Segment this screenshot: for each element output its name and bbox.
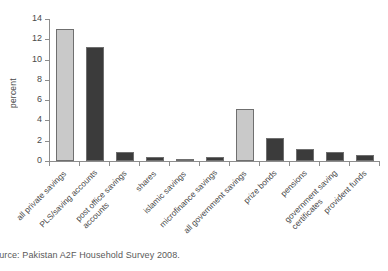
y-tick-mark	[45, 19, 49, 20]
y-tick-mark	[45, 141, 49, 142]
bar-series	[50, 19, 380, 161]
y-tick-label: 12	[32, 33, 42, 43]
y-tick-label: 6	[37, 94, 42, 104]
y-tick-mark	[45, 120, 49, 121]
bar	[206, 157, 224, 161]
bar	[176, 159, 194, 161]
y-tick-mark	[45, 100, 49, 101]
chart-figure: percent 02468101214 all private savingsP…	[0, 0, 388, 271]
x-axis-label-line: shares	[134, 168, 159, 193]
bar	[116, 152, 134, 161]
y-tick-label: 2	[37, 135, 42, 145]
source-note: Source: Pakistan A2F Household Survey 20…	[0, 250, 180, 260]
y-tick-label: 14	[32, 13, 42, 23]
y-tick-mark	[45, 80, 49, 81]
bar	[326, 152, 344, 161]
y-axis-title: percent	[8, 58, 24, 128]
bar	[56, 29, 74, 161]
y-tick-mark	[45, 60, 49, 61]
x-axis-label: shares	[134, 169, 158, 193]
y-tick-label: 0	[37, 155, 42, 165]
x-axis-labels: all private savingsPLS/saving accountspo…	[0, 166, 388, 246]
y-tick-label: 4	[37, 114, 42, 124]
y-tick-label: 10	[32, 54, 42, 64]
y-tick-mark	[45, 39, 49, 40]
bar	[296, 149, 314, 161]
y-tick-label: 8	[37, 74, 42, 84]
bar	[356, 155, 374, 161]
bar	[146, 157, 164, 161]
bar	[236, 109, 254, 161]
x-axis-label: all private savings	[15, 169, 68, 222]
bar	[86, 47, 104, 161]
bar	[266, 138, 284, 161]
